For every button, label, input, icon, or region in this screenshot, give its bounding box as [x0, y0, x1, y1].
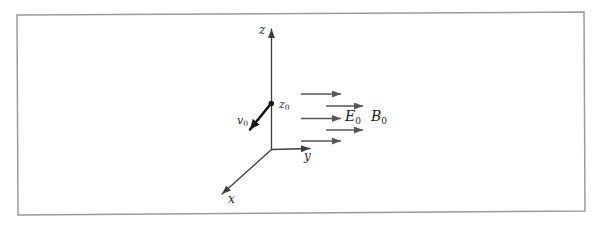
B0-label-base: B [370, 108, 381, 124]
z-axis-label: z [258, 23, 266, 37]
z0-label-sub: 0 [285, 103, 290, 112]
x-axis-label: x [228, 192, 235, 206]
E0-label-base: E [344, 108, 355, 124]
v0-label-sub: 0 [243, 119, 248, 128]
z0-point [269, 101, 274, 106]
E0-label-sub: 0 [355, 116, 361, 126]
physics-diagram: z y x z0 v0 E0 B0 [0, 0, 597, 225]
figure-canvas: z y x z0 v0 E0 B0 [0, 0, 597, 225]
B0-label-sub: 0 [381, 116, 387, 126]
figure-frame [17, 12, 585, 215]
y-axis-label: y [303, 149, 311, 163]
